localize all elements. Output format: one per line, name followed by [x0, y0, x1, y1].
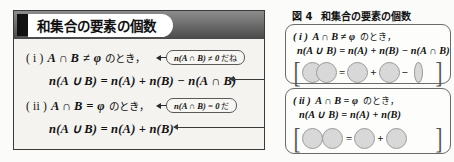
statement-condition-ii: A ∩ B	[51, 99, 82, 114]
page-root: 和集合の要素の個数 ( i ) A ∩ B ≠ φ のとき， n(A ∩ B) …	[0, 0, 454, 162]
figure-caption: 図 4 和集合の要素の個数	[292, 8, 411, 23]
callout-jp-i: だね	[221, 52, 237, 63]
venn-bracket-close-i: ]	[436, 57, 443, 87]
figure-box-i-condition-row: ( i ) A ∩ B ≠ φ のとき，	[293, 30, 396, 43]
venn-circle-b-alone-icon	[379, 62, 400, 83]
figure-box-i-condition: A ∩ B ≠ φ	[312, 31, 355, 42]
venn-bracket-open-ii: [	[294, 123, 301, 153]
statement-emptyset-i: φ	[94, 51, 101, 66]
statement-emptyset-ii: φ	[97, 99, 104, 114]
venn-circle-b-icon	[322, 128, 343, 149]
callout-bubble-ii: n(A ∩ B) = 0 だ	[166, 98, 237, 113]
statement-label-ii: ( ii )	[26, 100, 47, 112]
statement-relation-i: ≠	[83, 51, 90, 66]
statement-suffix-ii: のとき，	[109, 98, 149, 113]
venn-bracket-close-ii: ]	[436, 123, 443, 153]
figure-box-ii-venn-row: [ = + ]	[292, 123, 444, 153]
venn-circle-b-alone-icon	[386, 128, 407, 149]
panel-title-text: 和集合の要素の個数	[37, 15, 157, 35]
venn-overlapping-pair-i	[302, 62, 337, 83]
venn-operator-plus-ii: +	[377, 132, 383, 144]
figure-box-ii-condition-row: ( ii ) A ∩ B = φ のとき，	[293, 94, 399, 107]
figure-caption-number: 図 4	[292, 11, 312, 22]
statement-row-i: ( i ) A ∩ B ≠ φ のとき，	[26, 50, 145, 66]
callout-math-i: n(A ∩ B) ≠ 0	[174, 53, 219, 63]
connector-arrow-ii	[174, 127, 264, 128]
venn-circle-a-icon	[302, 128, 323, 149]
venn-operator-equals-ii: =	[346, 132, 352, 144]
callout-arrow-ii	[157, 105, 166, 106]
formula-ii: n(A ∪ B) = n(A) + n(B)	[49, 121, 174, 137]
figure-box-i: ( i ) A ∩ B ≠ φ のとき， n(A ∪ B) = n(A) + n…	[285, 24, 451, 84]
figure-box-ii-label: ( ii )	[293, 95, 311, 106]
panel-body: ( i ) A ∩ B ≠ φ のとき， n(A ∩ B) ≠ 0 だね n(A…	[14, 39, 264, 149]
venn-intersection-lens-icon	[414, 62, 423, 83]
figure-box-i-venn-row: [ = + − ]	[292, 57, 444, 87]
figure-box-i-label: ( i )	[293, 31, 308, 42]
venn-operator-plus-i: +	[370, 66, 376, 78]
figure-box-i-equation: n(A ∪ B) = n(A) + n(B) − n(A ∩ B)	[297, 44, 450, 56]
figure-box-i-condition-suffix: のとき，	[360, 32, 396, 42]
venn-operator-equals-i: =	[339, 66, 345, 78]
formula-i: n(A ∪ B) = n(A) + n(B) − n(A ∩ B)	[49, 73, 236, 89]
figure-box-ii-equation: n(A ∪ B) = n(A) + n(B)	[299, 108, 401, 120]
callout-bubble-i: n(A ∩ B) ≠ 0 だね	[166, 50, 245, 65]
union-formula-panel: 和集合の要素の個数 ( i ) A ∩ B ≠ φ のとき， n(A ∩ B) …	[13, 10, 265, 150]
statement-relation-ii: =	[86, 99, 93, 114]
figure-box-ii-condition-suffix: のとき，	[363, 96, 399, 106]
callout-math-ii: n(A ∩ B) = 0	[174, 101, 219, 111]
figure-box-ii-condition: A ∩ B = φ	[315, 95, 358, 106]
panel-title-pill: 和集合の要素の個数	[28, 14, 173, 37]
figure-caption-title: 和集合の要素の個数	[321, 11, 411, 22]
venn-circle-a-alone-icon	[354, 128, 375, 149]
connector-arrow-i	[230, 79, 264, 80]
callout-jp-ii: だ	[221, 100, 229, 111]
statement-label-i: ( i )	[26, 52, 44, 64]
venn-operator-minus-i: −	[402, 66, 408, 78]
venn-disjoint-pair-ii	[302, 128, 344, 149]
statement-condition-i: A ∩ B	[48, 51, 79, 66]
venn-circle-b-icon	[316, 62, 337, 83]
statement-row-ii: ( ii ) A ∩ B = φ のとき，	[26, 98, 149, 114]
header-black-tab-marker	[17, 14, 28, 36]
venn-circle-a-alone-icon	[347, 62, 368, 83]
statement-suffix-i: のとき，	[105, 50, 145, 65]
callout-arrow-i	[157, 57, 166, 58]
figure-box-ii: ( ii ) A ∩ B = φ のとき， n(A ∪ B) = n(A) + …	[285, 88, 451, 154]
venn-bracket-open-i: [	[294, 57, 301, 87]
